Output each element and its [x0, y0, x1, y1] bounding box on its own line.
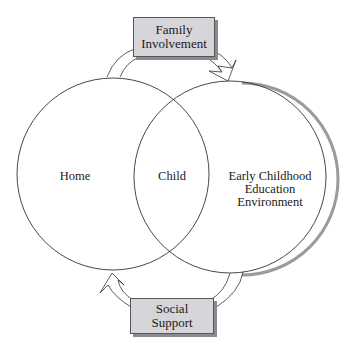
ece-label-line: Environment	[215, 196, 325, 209]
family-involvement-box: Family Involvement	[133, 17, 215, 57]
box-line: Social	[131, 302, 213, 316]
child-label: Child	[150, 170, 194, 183]
box-line: Support	[131, 316, 213, 330]
social-support-box: Social Support	[130, 298, 214, 334]
ece-label: Early Childhood Education Environment	[215, 170, 325, 209]
box-line: Family	[134, 23, 214, 37]
box-line: Involvement	[134, 37, 214, 51]
home-label: Home	[55, 170, 95, 183]
